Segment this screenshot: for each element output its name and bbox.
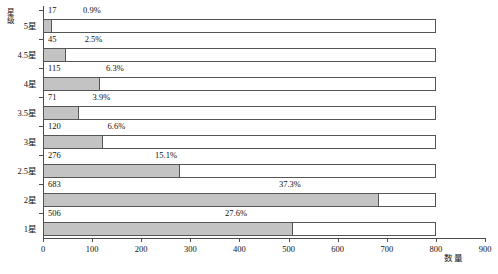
bar-value-label: 120	[48, 122, 61, 131]
bar-track[interactable]	[43, 106, 436, 120]
x-axis-tick	[190, 238, 191, 242]
bar-value-label: 683	[48, 180, 61, 189]
y-axis-tick	[39, 213, 43, 214]
bar-track[interactable]	[43, 48, 436, 62]
bar-percent-label: 3.9%	[93, 93, 111, 102]
x-axis-tick	[141, 238, 142, 242]
x-axis-tick-label: 800	[430, 244, 443, 254]
x-axis-tick-label: 500	[282, 244, 295, 254]
x-axis-tick-label: 100	[86, 244, 99, 254]
category-label: 3星	[24, 137, 37, 147]
category-label: 2.5星	[17, 166, 37, 176]
y-axis-tick	[39, 126, 43, 127]
x-axis-tick	[92, 238, 93, 242]
bar-fill[interactable]	[44, 136, 103, 148]
plot-area: 5星170.9%4.5星452.5%4星1156.3%3.5星713.9%3星1…	[43, 6, 485, 238]
bar-value-label: 17	[48, 6, 57, 15]
bar-fill[interactable]	[44, 78, 100, 90]
bar-value-label: 45	[48, 35, 57, 44]
x-axis-tick	[338, 238, 339, 242]
y-axis-tick	[39, 10, 43, 11]
bar-track[interactable]	[43, 19, 436, 33]
category-label: 1星	[24, 224, 37, 234]
bar-track[interactable]	[43, 135, 436, 149]
x-axis-tick-label: 300	[184, 244, 197, 254]
bar-chart: 星级 5星170.9%4.5星452.5%4星1156.3%3.5星713.9%…	[0, 0, 498, 274]
bar-percent-label: 15.1%	[155, 151, 177, 160]
category-label: 4星	[24, 79, 37, 89]
bar-percent-label: 2.5%	[85, 35, 103, 44]
x-axis-title: 数量	[444, 253, 464, 263]
x-axis-tick	[43, 238, 44, 242]
y-axis-tick	[39, 184, 43, 185]
bar-track[interactable]	[43, 193, 436, 207]
bar-track[interactable]	[43, 222, 436, 236]
bar-percent-label: 0.9%	[83, 6, 101, 15]
bar-value-label: 506	[48, 209, 61, 218]
category-label: 2星	[24, 195, 37, 205]
category-label: 3.5星	[17, 108, 37, 118]
x-axis-tick	[485, 238, 486, 242]
category-label: 4.5星	[17, 50, 37, 60]
bar-percent-label: 6.6%	[108, 122, 126, 131]
bar-value-label: 115	[48, 64, 60, 73]
y-axis-tick	[39, 155, 43, 156]
bar-fill[interactable]	[44, 20, 52, 32]
x-axis-tick-label: 200	[135, 244, 148, 254]
bar-value-label: 71	[48, 93, 57, 102]
bar-track[interactable]	[43, 77, 436, 91]
bar-track[interactable]	[43, 164, 436, 178]
y-axis-tick	[39, 68, 43, 69]
x-axis-tick-label: 600	[331, 244, 344, 254]
x-axis-tick	[239, 238, 240, 242]
bar-percent-label: 37.3%	[279, 180, 301, 189]
x-axis-tick-label: 0	[41, 244, 45, 254]
bar-percent-label: 6.3%	[106, 64, 124, 73]
y-axis-title: 星级	[0, 8, 13, 24]
x-axis-line	[43, 238, 485, 239]
bar-fill[interactable]	[44, 223, 293, 235]
x-axis-tick-label: 400	[233, 244, 246, 254]
bar-percent-label: 27.6%	[225, 209, 247, 218]
x-axis-tick-label: 900	[479, 244, 492, 254]
x-axis-tick	[387, 238, 388, 242]
bar-fill[interactable]	[44, 49, 66, 61]
bar-fill[interactable]	[44, 165, 180, 177]
x-axis-tick-label: 700	[380, 244, 393, 254]
bar-fill[interactable]	[44, 194, 379, 206]
bar-value-label: 276	[48, 151, 61, 160]
x-axis-tick	[289, 238, 290, 242]
y-axis-tick	[39, 97, 43, 98]
y-axis-tick	[39, 39, 43, 40]
bar-fill[interactable]	[44, 107, 79, 119]
x-axis-tick	[436, 238, 437, 242]
category-label: 5星	[24, 21, 37, 31]
